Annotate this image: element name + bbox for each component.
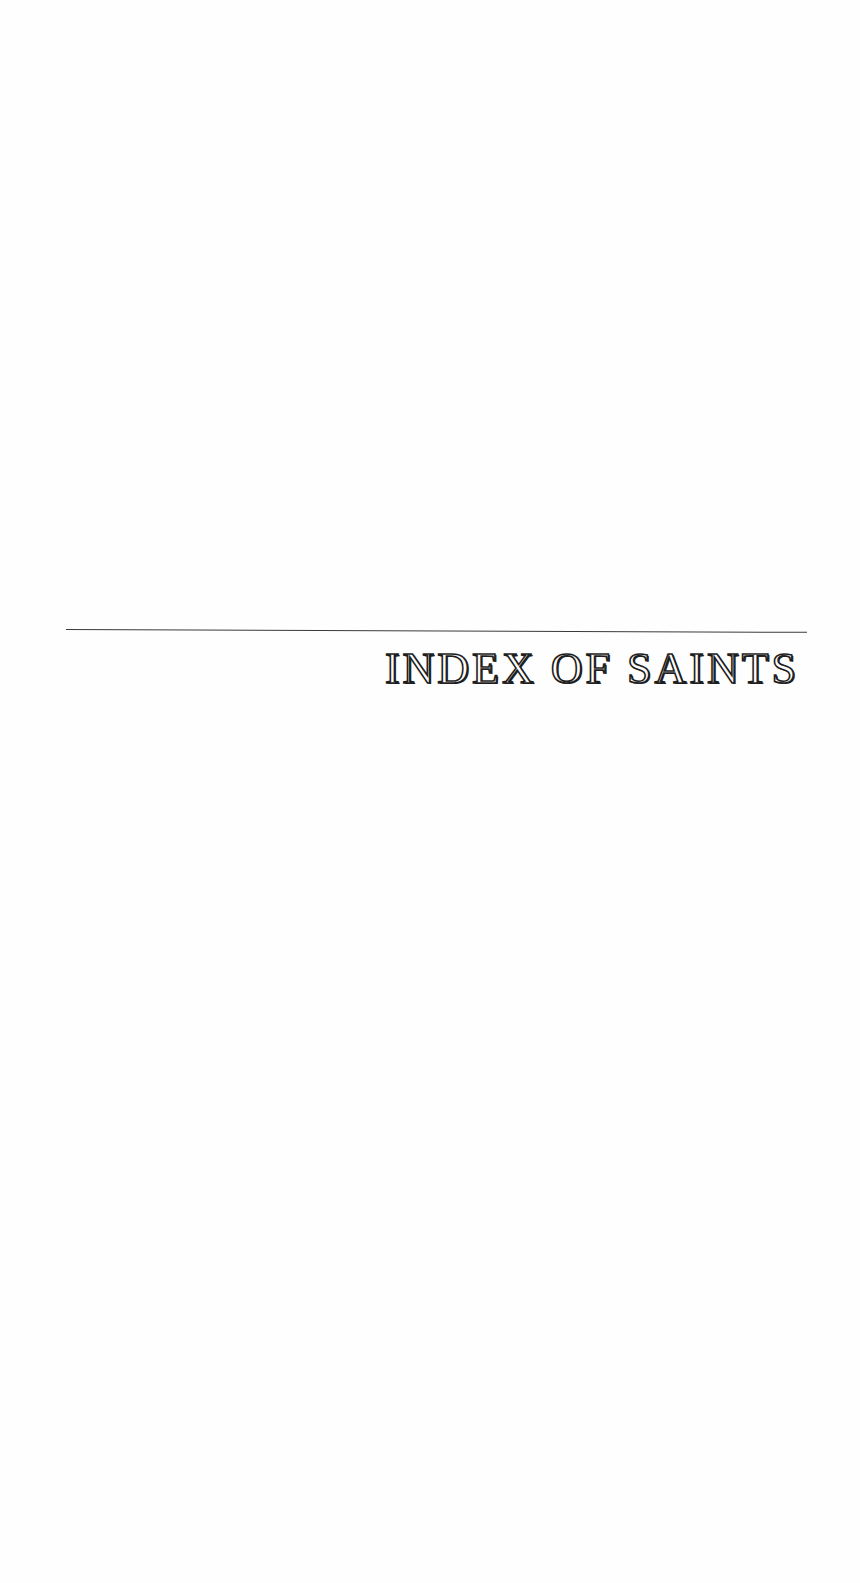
horizontal-rule — [66, 629, 807, 633]
section-title: INDEX OF SAINTS — [385, 644, 799, 694]
book-page: INDEX OF SAINTS — [0, 0, 860, 1583]
